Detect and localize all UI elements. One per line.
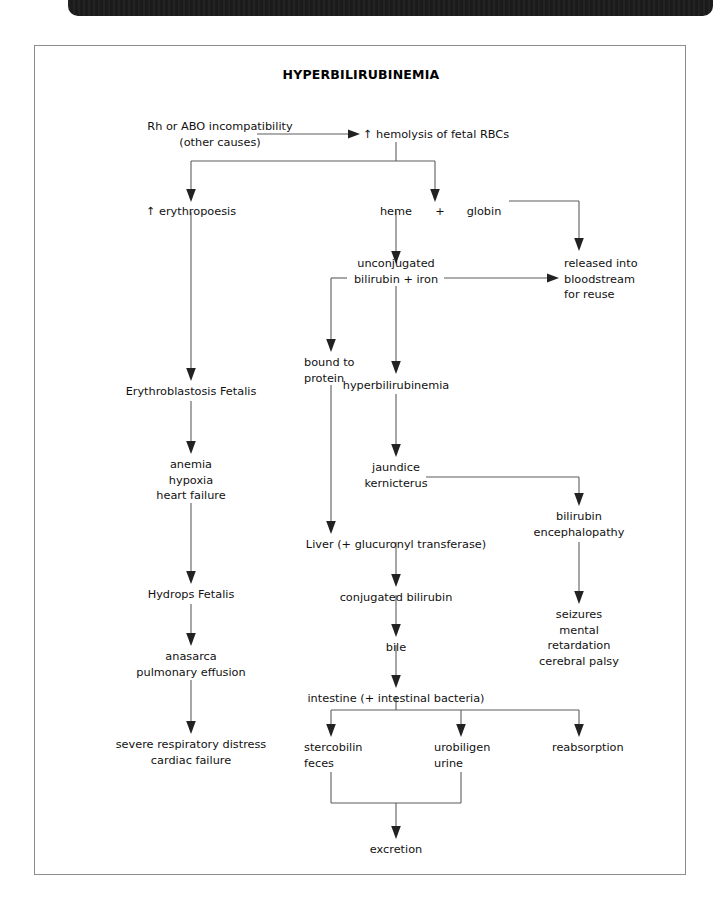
node-heme: heme [356, 204, 436, 220]
node-anasarca-pulmonary-effusion: anasarca pulmonary effusion [76, 649, 306, 680]
node-stercobilin-feces: stercobilin feces [304, 740, 363, 771]
node-released-into-bloodstream: released into bloodstream for reuse [564, 256, 638, 303]
node-erythropoesis: ↑ erythropoesis [96, 204, 286, 220]
node-hemolysis-fetal-rbcs: ↑ hemolysis of fetal RBCs [363, 127, 509, 143]
node-severe-respiratory-distress: severe respiratory distress cardiac fail… [51, 737, 331, 768]
node-excretion: excretion [321, 842, 471, 858]
node-intestine-intestinal-bacteria: intestine (+ intestinal bacteria) [251, 691, 541, 707]
node-urobiligen-urine: urobiligen urine [434, 740, 490, 771]
node-jaundice-kernicterus: jaundice kernicterus [321, 460, 471, 491]
node-rh-abo-incompatibility: Rh or ABO incompatibility (other causes) [105, 119, 335, 150]
node-seizures-mental-retardation: seizures mental retardation cerebral pal… [484, 607, 674, 669]
node-reabsorption: reabsorption [552, 740, 624, 756]
node-hydrops-fetalis: Hydrops Fetalis [81, 587, 301, 603]
node-conjugated-bilirubin: conjugated bilirubin [286, 590, 506, 606]
figure-frame: HYPERBILIRUBINEMIA [34, 45, 686, 875]
page-header-bar: 252 [68, 0, 713, 16]
node-globin: globin [444, 204, 524, 220]
node-bilirubin-encephalopathy: bilirubin encephalopathy [484, 509, 674, 540]
node-anemia-hypoxia-heart-failure: anemia hypoxia heart failure [91, 457, 291, 504]
node-erythroblastosis-fetalis: Erythroblastosis Fetalis [71, 384, 311, 400]
node-liver-glucuronyl-transferase: Liver (+ glucuronyl transferase) [256, 537, 536, 553]
node-hyperbilirubinemia: hyperbilirubinemia [291, 378, 501, 394]
node-bile: bile [351, 640, 441, 656]
node-unconjugated-bilirubin: unconjugated bilirubin + iron [311, 256, 481, 287]
header-bar-texture [68, 0, 713, 16]
figure-title: HYPERBILIRUBINEMIA [35, 67, 687, 82]
